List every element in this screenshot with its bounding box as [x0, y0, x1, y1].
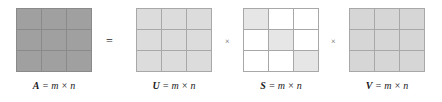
matrix-s-cell-0-0: [244, 9, 268, 29]
matrix-v-cell-2-1: [375, 51, 399, 71]
matrix-s-cell-0-1: [269, 9, 293, 29]
multiplication-sign-2: ×: [331, 38, 336, 46]
matrix-a-cell-1-1: [42, 30, 66, 50]
matrix-s-name: S: [260, 80, 266, 91]
matrix-v-grid: [349, 8, 425, 72]
matrix-v-cell-1-0: [350, 30, 374, 50]
matrix-u-cell-1-0: [137, 30, 161, 50]
matrix-a-cell-1-2: [67, 30, 91, 50]
matrix-u: [136, 8, 212, 72]
matrix-v-cell-1-2: [400, 30, 424, 50]
matrix-v-cell-0-2: [400, 9, 424, 29]
matrix-s-grid: [243, 8, 319, 72]
matrix-s-label: S = m × n: [226, 80, 336, 92]
matrix-a-cell-0-2: [67, 9, 91, 29]
matrix-a-name: A: [33, 80, 40, 91]
matrix-v-cell-2-2: [400, 51, 424, 71]
matrix-u-cell-0-2: [187, 9, 211, 29]
matrix-u-cell-0-1: [162, 9, 186, 29]
matrix-a-cell-0-1: [42, 9, 66, 29]
matrix-v-cell-0-1: [375, 9, 399, 29]
matrix-s-cell-1-1: [269, 30, 293, 50]
matrix-v-label: V = m × n: [332, 80, 442, 92]
matrix-a-cell-0-0: [17, 9, 41, 29]
matrix-s-cell-1-2: [294, 30, 318, 50]
multiplication-sign-1: ×: [225, 38, 230, 46]
matrix-a-cell-2-0: [17, 51, 41, 71]
matrix-s: [243, 8, 319, 72]
matrix-u-label: U = m × n: [119, 80, 229, 92]
matrix-u-dimension: = m × n: [162, 80, 195, 91]
matrix-v: [349, 8, 425, 72]
matrix-u-cell-1-1: [162, 30, 186, 50]
matrix-a-cell-2-2: [67, 51, 91, 71]
matrix-s-cell-1-0: [244, 30, 268, 50]
matrix-s-cell-2-1: [269, 51, 293, 71]
matrix-v-cell-0-0: [350, 9, 374, 29]
matrix-a-cell-2-1: [42, 51, 66, 71]
matrix-s-cell-0-2: [294, 9, 318, 29]
matrix-u-cell-2-2: [187, 51, 211, 71]
matrix-u-grid: [136, 8, 212, 72]
matrix-a: [16, 8, 92, 72]
equals-sign: =: [106, 35, 113, 47]
matrix-s-cell-2-0: [244, 51, 268, 71]
matrix-a-label: A = m × n: [0, 80, 109, 92]
matrix-u-cell-2-0: [137, 51, 161, 71]
matrix-u-cell-2-1: [162, 51, 186, 71]
matrix-v-cell-1-1: [375, 30, 399, 50]
matrix-u-name: U: [153, 80, 160, 91]
matrix-v-dimension: = m × n: [375, 80, 408, 91]
matrix-v-cell-2-0: [350, 51, 374, 71]
svd-diagram: A = m × n = U = m × n ×: [0, 0, 442, 102]
matrix-a-grid: [16, 8, 92, 72]
matrix-u-cell-1-2: [187, 30, 211, 50]
matrix-u-cell-0-0: [137, 9, 161, 29]
matrix-a-dimension: = m × n: [42, 80, 75, 91]
matrix-s-cell-2-2: [294, 51, 318, 71]
matrix-a-cell-1-0: [17, 30, 41, 50]
matrix-s-dimension: = m × n: [268, 80, 301, 91]
matrix-v-name: V: [366, 80, 373, 91]
